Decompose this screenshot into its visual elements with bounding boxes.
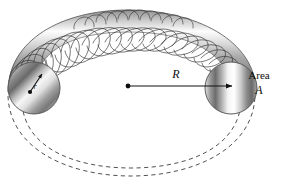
toroid-figure: r R Area A (0, 0, 282, 178)
area-label-line2: A (254, 83, 263, 97)
area-label-line1: Area (248, 69, 269, 81)
major-radius-label: R (171, 67, 180, 81)
toroid-diagram-canvas: r R Area A (0, 0, 282, 178)
left-cross-section: r (8, 62, 60, 114)
dashed-inner-arc (22, 104, 241, 168)
